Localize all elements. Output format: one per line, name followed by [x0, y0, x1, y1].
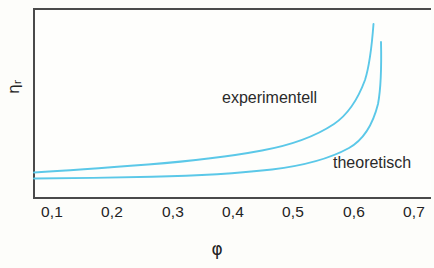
x-tick-label-1: 0,1	[41, 203, 63, 221]
y-axis-title: ηr	[5, 64, 23, 110]
x-tick-label-6: 0,6	[343, 203, 365, 221]
x-tick-label-4: 0,4	[222, 203, 244, 221]
x-tick-label-7: 0,7	[403, 203, 425, 221]
x-tick-label-2: 0,2	[101, 203, 123, 221]
x-axis-title: φ	[0, 239, 434, 260]
y-axis-title-subscript: r	[11, 80, 23, 84]
curve-label-theoretisch: theoretisch	[333, 154, 411, 172]
figure-container: 0,1 0,2 0,3 0,4 0,5 0,6 0,7 φ ηr experim…	[0, 0, 434, 268]
x-tick-label-3: 0,3	[162, 203, 184, 221]
x-tick-label-5: 0,5	[282, 203, 304, 221]
x-axis-title-text: φ	[211, 239, 222, 259]
curve-label-experimentell: experimentell	[222, 89, 317, 107]
y-axis-title-base: η	[5, 84, 23, 94]
